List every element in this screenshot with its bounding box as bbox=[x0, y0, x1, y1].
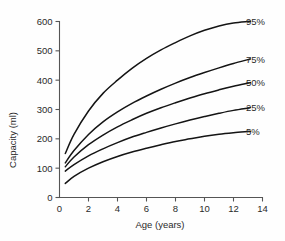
x-tick-label: 4 bbox=[115, 203, 120, 214]
percentile-label: 25% bbox=[246, 102, 266, 113]
x-tick-label: 2 bbox=[86, 203, 91, 214]
percentile-curves bbox=[65, 22, 248, 184]
y-tick-label: 300 bbox=[37, 104, 53, 115]
percentile-label: 75% bbox=[246, 54, 266, 65]
x-tick-label: 8 bbox=[173, 203, 178, 214]
y-tick-label: 600 bbox=[37, 16, 53, 27]
y-tick-label: 400 bbox=[37, 75, 53, 86]
y-axis-ticks bbox=[56, 22, 60, 198]
y-tick-label: 500 bbox=[37, 45, 53, 56]
y-tick-label: 200 bbox=[37, 133, 53, 144]
x-tick-label: 6 bbox=[144, 203, 149, 214]
percentile-curve bbox=[65, 108, 248, 171]
capacity-vs-age-line-chart: 0100200300400500600 02468101214 Capacity… bbox=[0, 0, 285, 241]
y-axis-tick-labels: 0100200300400500600 bbox=[37, 16, 53, 203]
x-tick-label: 14 bbox=[257, 203, 268, 214]
y-axis-title: Capacity (ml) bbox=[7, 112, 18, 168]
x-tick-label: 10 bbox=[199, 203, 210, 214]
chart-figure: 0100200300400500600 02468101214 Capacity… bbox=[0, 0, 285, 241]
percentile-label: 5% bbox=[246, 126, 260, 137]
percentile-label: 95% bbox=[246, 16, 266, 27]
percentile-labels: 95%75%50%25%5% bbox=[246, 16, 266, 137]
percentile-curve bbox=[65, 132, 248, 184]
x-axis-title: Age (years) bbox=[135, 219, 184, 230]
percentile-curve bbox=[65, 60, 248, 163]
y-tick-label: 0 bbox=[47, 192, 52, 203]
y-tick-label: 100 bbox=[37, 163, 53, 174]
percentile-label: 50% bbox=[246, 77, 266, 88]
x-axis-ticks bbox=[89, 198, 263, 202]
x-tick-label: 0 bbox=[57, 203, 62, 214]
x-tick-label: 12 bbox=[228, 203, 239, 214]
x-axis-tick-labels: 02468101214 bbox=[57, 203, 268, 214]
